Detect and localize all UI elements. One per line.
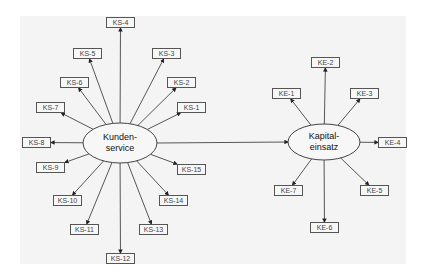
ks-edge (151, 154, 177, 164)
ks-edge (137, 161, 169, 195)
ks-node: KS-5 (73, 48, 102, 59)
hub-kundenservice-line1: Kunden- (90, 132, 150, 143)
ks-edge (73, 161, 104, 195)
ks-edge (138, 88, 176, 125)
ke-node: KE-4 (378, 137, 407, 148)
ks-node: KS-3 (152, 48, 181, 59)
ke-edge (324, 68, 325, 124)
ke-node: KE-1 (272, 88, 301, 99)
ks-node: KS-7 (36, 102, 65, 113)
ks-node: KS-6 (60, 77, 89, 88)
ks-node: KS-9 (36, 162, 65, 173)
ke-edge (338, 99, 360, 125)
ks-edge (130, 59, 164, 124)
ke-edge (341, 158, 369, 185)
ke-edge (291, 99, 311, 125)
ks-node: KS-8 (22, 137, 51, 148)
ks-node: KS-4 (106, 17, 135, 28)
hub-kapitaleinsatz-line1: Kapital- (294, 131, 354, 142)
ks-edge (89, 59, 112, 123)
hub-kapitaleinsatz-line2: einsatz (294, 142, 354, 153)
ks-node: KS-2 (167, 77, 196, 88)
ke-node: KE-6 (310, 222, 339, 233)
ks-node: KS-10 (53, 195, 82, 206)
hub-kundenservice-line2: service (90, 143, 150, 154)
ks-edge (87, 163, 112, 224)
hub-label-kundenservice: Kunden- service (90, 132, 150, 154)
ks-edge (147, 113, 180, 129)
ks-node: KS-12 (106, 253, 135, 264)
ke-node: KE-2 (311, 57, 340, 68)
ks-edge (61, 113, 93, 129)
ks-edge (65, 154, 89, 162)
ks-node: KS-11 (70, 224, 99, 235)
connector-edge (157, 142, 288, 143)
ks-node: KS-15 (177, 164, 206, 175)
ks-node: KS-14 (159, 195, 188, 206)
ke-edge (293, 159, 312, 185)
ks-edge (128, 163, 152, 224)
ke-node: KE-3 (350, 88, 379, 99)
ke-node: KE-7 (274, 185, 303, 196)
ks-node: KS-13 (139, 224, 168, 235)
diagram-canvas (0, 0, 429, 279)
hub-label-kapitaleinsatz: Kapital- einsatz (294, 131, 354, 153)
ks-node: KS-1 (177, 102, 206, 113)
ke-node: KE-5 (360, 185, 389, 196)
